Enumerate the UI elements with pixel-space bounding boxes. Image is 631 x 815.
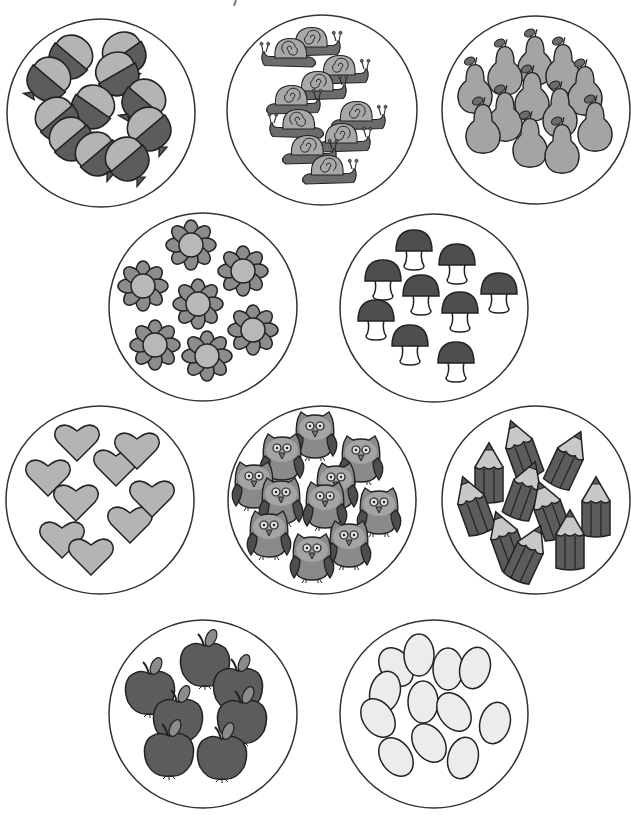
group-acorns	[7, 19, 195, 207]
group-pears	[442, 16, 630, 204]
group-owls	[228, 406, 416, 594]
group-mushrooms	[340, 214, 528, 402]
worksheet-canvas	[0, 0, 631, 815]
group-snails	[227, 15, 417, 205]
group-eggs	[340, 620, 528, 808]
group-pencils	[442, 406, 630, 594]
group-flowers	[109, 213, 297, 401]
group-apples	[109, 620, 297, 808]
group-hearts	[6, 406, 194, 594]
